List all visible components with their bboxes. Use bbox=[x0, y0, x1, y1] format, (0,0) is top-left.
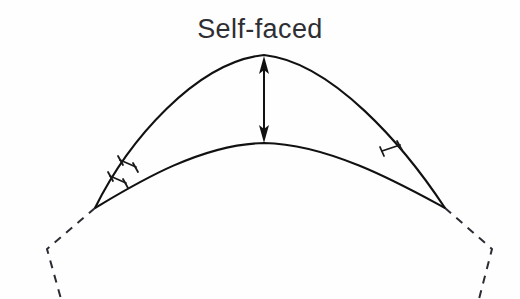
outer-arc bbox=[95, 55, 445, 208]
diagram-canvas bbox=[0, 0, 520, 299]
self-faced-arch-diagram: Self-faced bbox=[0, 0, 520, 299]
right-tick-mark bbox=[380, 141, 402, 156]
right-tick-marks bbox=[380, 141, 402, 156]
right-dashed-edge bbox=[445, 208, 492, 299]
left-tick-marks bbox=[108, 156, 138, 188]
label-self-faced: Self-faced bbox=[0, 16, 520, 43]
rise-dimension-arrow bbox=[259, 56, 269, 143]
inner-arc bbox=[95, 143, 445, 208]
left-dashed-edge bbox=[47, 208, 95, 299]
